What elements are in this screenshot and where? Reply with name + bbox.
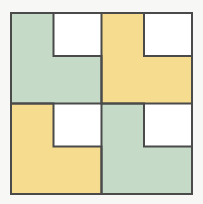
figure-root: Four congruent L-shaped tiles arranged i… xyxy=(0,0,203,204)
l-tile-tessellation-diagram: Four congruent L-shaped tiles arranged i… xyxy=(0,0,203,204)
